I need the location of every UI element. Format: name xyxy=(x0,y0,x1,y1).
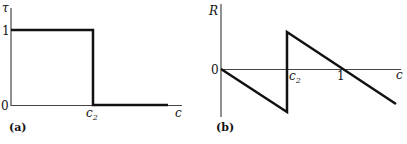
panel-b: R 0 c2 1 c (b) xyxy=(208,4,403,134)
tick-label-one: 1 xyxy=(337,69,345,83)
x-axis-label-c: c xyxy=(175,106,182,120)
tick-label-zero: 0 xyxy=(1,99,9,113)
panel-a: τ 1 0 c2 c (a) xyxy=(1,1,182,134)
tick-label-zero: 0 xyxy=(211,63,219,77)
panel-label-a: (a) xyxy=(9,121,27,134)
y-axis-label-tau: τ xyxy=(2,1,9,15)
panel-label-b: (b) xyxy=(216,121,234,134)
R-sawtooth-line xyxy=(221,32,396,112)
tick-label-c2: c2 xyxy=(86,106,98,122)
tick-label-one: 1 xyxy=(2,24,10,38)
tau-step-line xyxy=(11,30,168,105)
y-axis-label-R: R xyxy=(208,4,218,18)
tick-label-c2: c2 xyxy=(289,69,301,85)
x-axis-label-c: c xyxy=(396,68,403,82)
figure: τ 1 0 c2 c (a) R 0 c2 1 c (b) xyxy=(0,0,407,144)
